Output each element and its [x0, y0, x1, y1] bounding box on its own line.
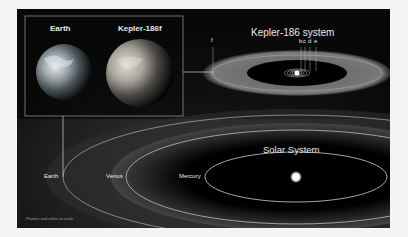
diagram-graphics: [17, 9, 390, 228]
kepler-star-icon: [295, 71, 300, 76]
kepler-186f-planet-image: [106, 39, 174, 107]
earth-planet-image: [36, 44, 92, 100]
footnote: Planets and orbits to scale: [26, 216, 73, 221]
solar-mercury-label: Mercury: [179, 173, 201, 179]
kepler-system-title: Kepler-186 system: [251, 27, 334, 38]
kepler-f-label: f: [211, 37, 213, 43]
sun-icon: [290, 171, 302, 183]
diagram-panel: Earth Kepler-186f Kepler-186 system f b …: [17, 9, 390, 228]
kepler-d-label: d: [308, 38, 311, 44]
solar-system-title: Solar System: [263, 144, 320, 155]
solar-earth-label: Earth: [44, 173, 58, 179]
kepler-e-label: e: [314, 38, 317, 44]
solar-venus-label: Venus: [106, 173, 123, 179]
earth-label: Earth: [50, 24, 70, 33]
kepler-c-label: c: [303, 38, 306, 44]
kepler-b-label: b: [299, 38, 302, 44]
kepler-186f-label: Kepler-186f: [118, 24, 162, 33]
